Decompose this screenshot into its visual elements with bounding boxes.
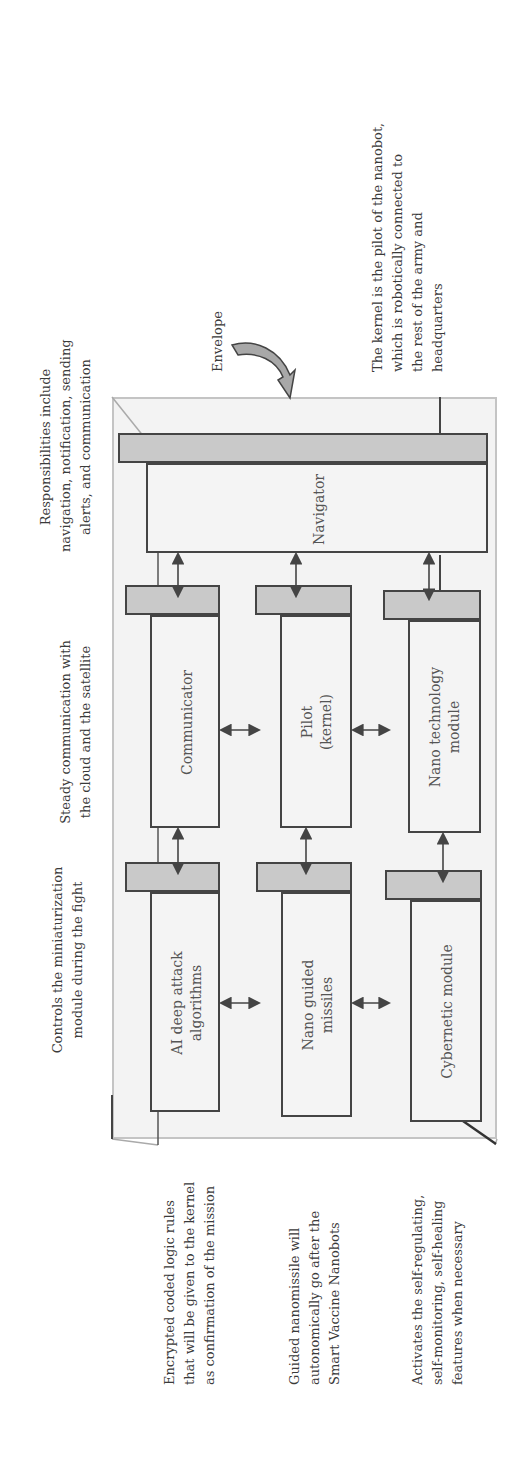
envelope-label: Envelope [208,311,228,372]
annotation-encrypted: Encrypted coded logic rules that will be… [160,1182,220,1385]
annotation-ai-deep-attack: Controls the miniaturization module duri… [48,860,88,1060]
annotation-guided: Guided nanomissile will autonomically go… [285,1211,345,1385]
annotation-cybernetic: Activates the self-regulating, self-moni… [408,1195,468,1385]
annotation-kernel: The kernel is the pilot of the nanobot, … [368,123,448,372]
annotation-communicator: Steady communication with the cloud and … [56,632,96,832]
annotation-navigator: Responsibilities include navigation, not… [36,342,96,552]
